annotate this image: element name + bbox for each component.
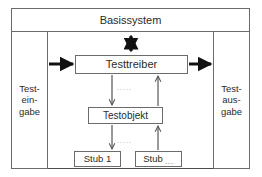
testeingabe-line-1: Test-	[19, 83, 40, 94]
node-stub-n[interactable]: Stub...	[135, 151, 182, 167]
node-basissystem-label: Basissystem	[100, 14, 162, 27]
node-stub-1[interactable]: Stub 1	[74, 151, 121, 167]
node-testobjekt[interactable]: Testobjekt	[88, 107, 163, 124]
node-testeingabe-label: Test- ein- gabe	[19, 83, 40, 117]
node-stub-1-label: Stub 1	[84, 153, 111, 164]
testausgabe-line-3: gabe	[221, 106, 242, 117]
testeingabe-line-2: ein-	[19, 94, 40, 105]
node-testtreiber-label: Testtreiber	[106, 58, 157, 71]
node-testtreiber[interactable]: Testtreiber	[75, 55, 188, 74]
node-testobjekt-label: Testobjekt	[103, 110, 148, 122]
edge-label-objekt-stub: .....	[117, 137, 132, 144]
node-testausgabe-label: Test- aus- gabe	[221, 83, 242, 117]
diagram-canvas: Basissystem Test- ein- gabe Test- aus- g…	[0, 0, 262, 177]
testausgabe-line-2: aus-	[221, 94, 242, 105]
node-basissystem[interactable]: Basissystem	[11, 8, 250, 32]
node-stub-n-suffix: ...	[165, 156, 174, 167]
testausgabe-line-1: Test-	[221, 83, 242, 94]
node-stub-n-label: Stub	[143, 153, 163, 164]
node-testausgabe[interactable]: Test- aus- gabe	[213, 31, 250, 169]
node-testeingabe[interactable]: Test- ein- gabe	[11, 31, 48, 169]
testeingabe-line-3: gabe	[19, 106, 40, 117]
edge-label-treiber-objekt: .....	[117, 84, 132, 91]
